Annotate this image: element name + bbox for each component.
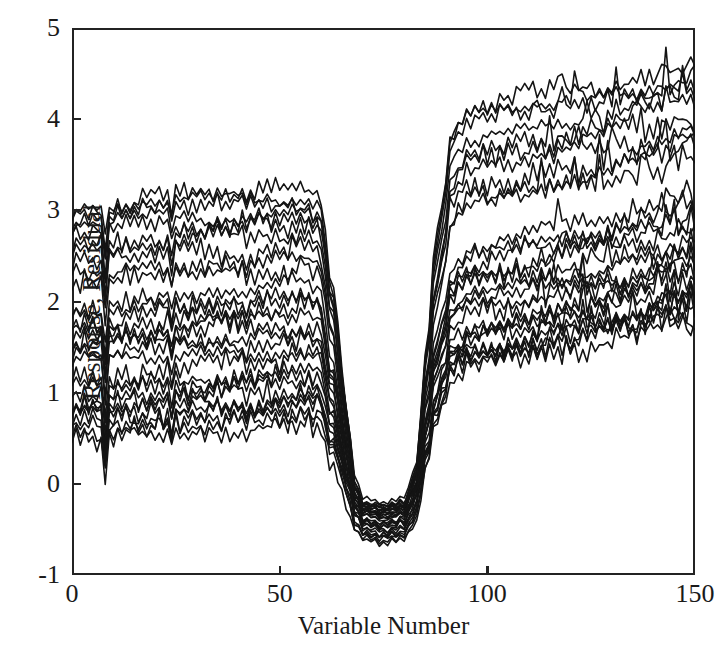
data-lines <box>72 28 695 575</box>
x-axis-label: Variable Number <box>72 612 695 640</box>
plot-area <box>72 28 695 575</box>
y-tick-mark <box>72 118 81 120</box>
data-line <box>72 205 695 506</box>
data-line <box>72 306 695 507</box>
chart-figure: -1012345 050100150 Response, Residual Va… <box>0 0 727 650</box>
data-line <box>72 180 695 528</box>
data-line <box>72 73 695 521</box>
y-axis-label: Response, Residual <box>78 204 106 400</box>
data-line <box>72 304 695 514</box>
data-line <box>72 246 695 510</box>
x-tick-label: 150 <box>676 581 715 607</box>
y-axis-label-wrap: Response, Residual <box>0 28 40 575</box>
x-tick-mark <box>486 566 488 575</box>
x-tick-label: 0 <box>66 581 79 607</box>
y-tick-mark <box>72 483 81 485</box>
x-tick-mark <box>279 566 281 575</box>
x-tick-label: 50 <box>267 581 293 607</box>
x-tick-label: 100 <box>468 581 507 607</box>
